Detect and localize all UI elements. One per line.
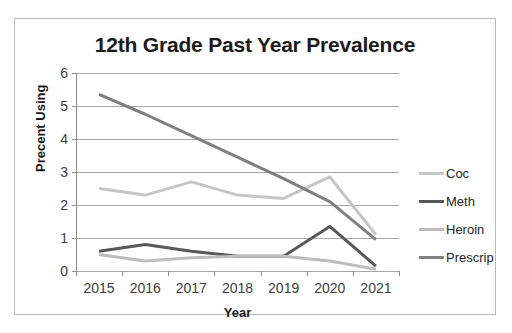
x-axis-title: Year [76,305,399,320]
x-tick-label: 2016 [130,280,161,296]
legend-swatch-icon [419,200,444,203]
y-tick-label: 3 [60,164,68,180]
x-tick-label: 2020 [314,280,345,296]
x-tick-mark [122,271,123,276]
chart-title: 12th Grade Past Year Prevalence [15,33,495,57]
legend-label: Prescrip [446,250,494,265]
x-tick-mark [307,271,308,276]
legend-item-prescrip[interactable]: Prescrip [419,243,505,271]
x-tick-mark [399,271,400,276]
x-tick-label: 2019 [268,280,299,296]
x-tick-mark [76,271,77,276]
series-lines [76,73,399,271]
x-tick-mark [214,271,215,276]
legend-swatch-icon [419,172,444,175]
x-tick-label: 2017 [176,280,207,296]
legend-label: Coc [446,166,469,181]
y-tick-label: 6 [60,65,68,81]
x-tick-mark [261,271,262,276]
series-line-prescrip [99,94,376,239]
legend-label: Heroin [446,222,484,237]
x-tick-label: 2021 [360,280,391,296]
legend-item-heroin[interactable]: Heroin [419,215,505,243]
y-tick-label: 4 [60,131,68,147]
x-tick-mark [353,271,354,276]
y-tick-label: 0 [60,263,68,279]
x-tick-mark [168,271,169,276]
y-tick-label: 2 [60,197,68,213]
gridline [76,271,399,272]
chart-legend: CocMethHeroinPrescrip [419,159,505,271]
legend-label: Meth [446,194,475,209]
legend-item-meth[interactable]: Meth [419,187,505,215]
y-tick-label: 1 [60,230,68,246]
legend-swatch-icon [419,228,444,231]
legend-swatch-icon [419,256,444,259]
x-tick-label: 2015 [83,280,114,296]
plot-area: 0123456 2015201620172018201920202021 [76,73,399,271]
series-line-heroin [99,255,376,270]
y-axis-title: Precent Using [33,85,48,172]
x-tick-label: 2018 [222,280,253,296]
chart-container: 12th Grade Past Year Prevalence Precent … [14,18,496,315]
y-tick-label: 5 [60,98,68,114]
legend-item-coc[interactable]: Coc [419,159,505,187]
